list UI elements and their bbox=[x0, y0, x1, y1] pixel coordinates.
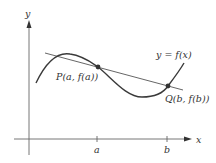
x-axis-label: x bbox=[196, 134, 202, 145]
y-axis-label: y bbox=[24, 8, 31, 19]
point-q-label: Q(b, f(b)) bbox=[165, 93, 210, 104]
x-axis-arrow-icon bbox=[184, 137, 192, 142]
curve-label: y = f(x) bbox=[155, 49, 192, 60]
tick-label-b: b bbox=[164, 144, 170, 155]
point-q bbox=[166, 84, 171, 89]
secant-diagram: y x a b y = f(x) P(a, f(a)) Q(b, f(b)) bbox=[0, 0, 216, 163]
tick-label-a: a bbox=[94, 144, 100, 155]
y-axis-arrow-icon bbox=[27, 20, 32, 28]
point-p bbox=[96, 65, 101, 70]
point-p-label: P(a, f(a)) bbox=[55, 71, 98, 82]
